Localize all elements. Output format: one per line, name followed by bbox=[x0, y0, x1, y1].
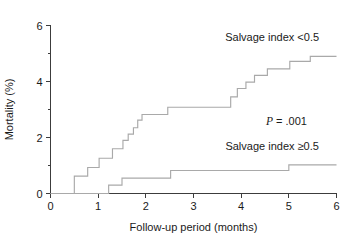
ticks-group bbox=[46, 26, 337, 199]
x-tick-label-2: 2 bbox=[143, 200, 149, 212]
x-tick-label-5: 5 bbox=[286, 200, 292, 212]
p-value-symbol: P bbox=[265, 115, 273, 127]
annotations-group: P = .001Salvage index <0.5Salvage index … bbox=[225, 31, 319, 152]
y-tick-label-0: 0 bbox=[36, 188, 42, 200]
curve-salvage-index-gte-0.5 bbox=[51, 165, 337, 194]
y-tick-label-6: 6 bbox=[36, 20, 42, 32]
p-value-number: = .001 bbox=[273, 115, 307, 127]
x-tick-label-6: 6 bbox=[333, 200, 339, 212]
axes-group bbox=[51, 26, 337, 194]
annotation-p-value: P = .001 bbox=[265, 115, 307, 127]
y-axis-title: Mortality (%) bbox=[3, 79, 15, 141]
x-tick-label-0: 0 bbox=[47, 200, 53, 212]
axis-titles-group: Follow-up period (months)Mortality (%) bbox=[3, 79, 257, 233]
annotation-lower-series-label: Salvage index ≥0.5 bbox=[225, 140, 319, 152]
x-tick-label-4: 4 bbox=[238, 200, 244, 212]
y-tick-label-2: 2 bbox=[36, 132, 42, 144]
x-tick-label-3: 3 bbox=[190, 200, 196, 212]
x-tick-label-1: 1 bbox=[95, 200, 101, 212]
chart-canvas: 01234560246 P = .001Salvage index <0.5Sa… bbox=[0, 0, 346, 238]
y-tick-label-4: 4 bbox=[36, 76, 42, 88]
chart-figure: 01234560246 P = .001Salvage index <0.5Sa… bbox=[0, 0, 346, 238]
x-axis-title: Follow-up period (months) bbox=[130, 221, 258, 233]
annotation-upper-series-label: Salvage index <0.5 bbox=[225, 31, 319, 43]
